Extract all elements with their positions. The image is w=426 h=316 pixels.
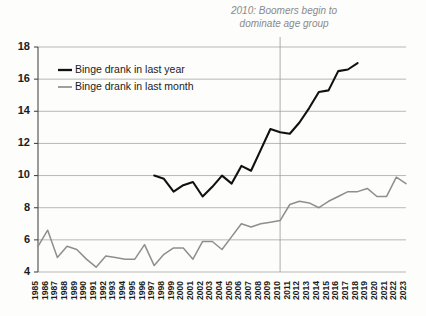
x-tick-label: 2023 — [398, 281, 408, 300]
x-tick-label: 1985 — [30, 281, 40, 300]
y-tick-label: 4 — [24, 265, 31, 277]
legend-label: Binge drank in last month — [75, 80, 194, 92]
x-tick-label: 1996 — [137, 281, 147, 300]
annotation-text-line2: dominate age group — [240, 18, 329, 29]
y-tick-label: 18 — [18, 40, 30, 52]
data-series-group — [38, 63, 406, 267]
x-tick-label: 2013 — [301, 281, 311, 300]
x-tick-label: 1995 — [127, 281, 137, 300]
x-tick-label: 2022 — [388, 281, 398, 300]
y-tick-label: 10 — [18, 168, 30, 180]
x-tick-label: 2010 — [272, 281, 282, 300]
x-tick-label: 2011 — [282, 281, 292, 300]
x-tick-label: 2019 — [359, 281, 369, 300]
x-tick-label: 2003 — [204, 281, 214, 300]
x-tick-labels-group: 1985198619871988198919901991199219931994… — [30, 281, 408, 300]
x-tick-label: 1994 — [117, 281, 127, 300]
x-tick-label: 2021 — [379, 281, 389, 300]
x-tick-label: 1986 — [40, 281, 50, 300]
x-tick-label: 1992 — [98, 281, 108, 300]
chart-legend: Binge drank in last yearBinge drank in l… — [58, 63, 194, 92]
x-tick-label: 2008 — [253, 281, 263, 300]
x-tick-label: 2018 — [350, 281, 360, 300]
x-tick-label: 2016 — [330, 281, 340, 300]
x-tick-label: 1990 — [78, 281, 88, 300]
x-tick-label: 1993 — [107, 281, 117, 300]
x-tick-label: 2002 — [195, 281, 205, 300]
line-chart: 4681012141618 19851986198719881989199019… — [0, 0, 426, 316]
x-tick-label: 2000 — [175, 281, 185, 300]
x-tick-label: 1999 — [166, 281, 176, 300]
x-tick-label: 2015 — [321, 281, 331, 300]
x-tick-label: 1998 — [156, 281, 166, 300]
y-tick-label: 14 — [18, 104, 31, 116]
x-tick-label: 2007 — [243, 281, 253, 300]
x-tick-label: 2012 — [291, 281, 301, 300]
x-tick-label: 2020 — [369, 281, 379, 300]
y-tick-label: 16 — [18, 72, 30, 84]
x-tick-label: 1988 — [59, 281, 69, 300]
x-tick-label: 2005 — [224, 281, 234, 300]
x-tick-label: 2014 — [311, 281, 321, 300]
y-tick-label: 12 — [18, 136, 30, 148]
x-tick-label: 1989 — [69, 281, 79, 300]
series-line-last-month — [38, 177, 406, 267]
x-tick-label: 1991 — [88, 281, 98, 300]
x-tick-label: 2009 — [262, 281, 272, 300]
legend-label: Binge drank in last year — [75, 63, 185, 75]
x-tick-label: 2004 — [214, 281, 224, 300]
annotation-text-line1: 2010: Boomers begin to — [230, 5, 338, 16]
y-tick-label: 6 — [24, 233, 30, 245]
x-tick-label: 2017 — [340, 281, 350, 300]
x-tick-label: 2006 — [233, 281, 243, 300]
x-tick-label: 1987 — [49, 281, 59, 300]
annotations-group: 2010: Boomers begin todominate age group — [230, 5, 338, 29]
x-tick-label: 2001 — [185, 281, 195, 300]
y-tick-labels-group: 4681012141618 — [18, 40, 38, 277]
x-tick-label: 1997 — [146, 281, 156, 300]
chart-container: 4681012141618 19851986198719881989199019… — [0, 0, 426, 316]
y-tick-label: 8 — [24, 201, 30, 213]
